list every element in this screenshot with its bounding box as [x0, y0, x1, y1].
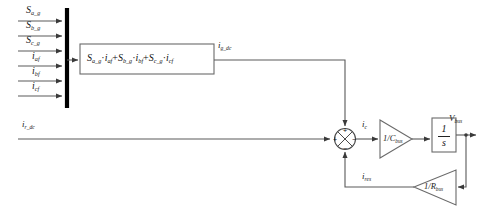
switching-function-equation: Sa_g·iaf+Sb_g·ibf+Sc_g·icf: [87, 52, 173, 63]
input-label-s-a-g: Sa_g: [26, 5, 40, 15]
summing-sign-top: +: [343, 127, 347, 134]
feedback-junction-dot: [464, 133, 468, 137]
summing-sign-right: −: [352, 136, 356, 143]
block-diagram-canvas: [0, 0, 478, 222]
signal-label-v-bus: Vbus: [449, 114, 462, 123]
signal-label-i-g-dc: ig_dc: [218, 41, 231, 50]
input-label-s-c-g: Sc_g: [26, 35, 40, 45]
integrator-transfer-function: 1 s: [436, 124, 452, 148]
input-label-i-bf: ibf: [32, 66, 40, 76]
input-label-s-b-g: Sb_g: [26, 20, 40, 30]
signal-label-i-r-dc: ir_dc: [22, 120, 35, 129]
summing-sign-left: +: [333, 136, 337, 143]
signal-label-i-c: ic: [362, 120, 367, 129]
gain-label-capacitance: 1/Cbus: [383, 134, 403, 143]
input-label-i-cf: icf: [32, 81, 39, 91]
grid-dc-current-path: [214, 60, 345, 126]
summing-sign-bottom: −: [343, 145, 347, 152]
gain-label-resistance: 1/Rbus: [424, 182, 443, 191]
input-label-i-af: iaf: [32, 51, 40, 61]
signal-label-i-res: ires: [362, 172, 371, 181]
bus-voltage-feedback-tap: [458, 135, 466, 187]
